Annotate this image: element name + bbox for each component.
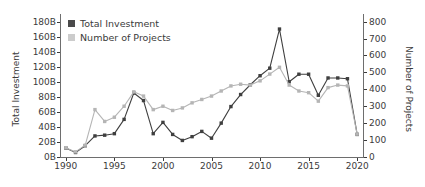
series-marker [258, 79, 261, 82]
series-marker [297, 73, 300, 76]
series-marker [317, 94, 320, 97]
series-marker [200, 98, 203, 101]
series-marker [346, 84, 349, 87]
series-marker [161, 105, 164, 108]
series-marker [113, 116, 116, 119]
legend-item[interactable]: Number of Projects [68, 31, 171, 44]
series-marker [181, 106, 184, 109]
series-marker [161, 121, 164, 124]
series-marker [317, 99, 320, 102]
series-marker [336, 83, 339, 86]
series-marker [171, 133, 174, 136]
series-marker [132, 90, 135, 93]
legend-label: Number of Projects [80, 32, 171, 43]
series-marker [122, 105, 125, 108]
series-1 [64, 27, 359, 154]
series-marker [268, 66, 271, 69]
series-marker [152, 132, 155, 135]
series-marker [142, 94, 145, 97]
series-marker [190, 135, 193, 138]
series-marker [229, 84, 232, 87]
series-marker [278, 27, 281, 30]
series-marker [268, 72, 271, 75]
series-marker [190, 101, 193, 104]
series-marker [74, 150, 77, 153]
series-marker [103, 120, 106, 123]
series-marker [287, 83, 290, 86]
series-marker [239, 83, 242, 86]
series-marker [239, 93, 242, 96]
series-marker [142, 99, 145, 102]
legend-swatch-icon [68, 20, 75, 27]
chart-series-layer [0, 0, 425, 187]
series-marker [249, 83, 252, 86]
series-marker [326, 86, 329, 89]
chart-figure: Total Investment Number of Projects 0B20… [0, 0, 425, 187]
series-marker [346, 77, 349, 80]
series-marker [200, 130, 203, 133]
series-marker [229, 105, 232, 108]
series-marker [336, 76, 339, 79]
series-marker [297, 89, 300, 92]
series-2 [64, 66, 359, 154]
series-marker [93, 134, 96, 137]
series-marker [220, 89, 223, 92]
legend-item[interactable]: Total Investment [68, 17, 171, 30]
series-marker [152, 108, 155, 111]
series-marker [278, 66, 281, 69]
series-marker [326, 76, 329, 79]
chart-legend: Total InvestmentNumber of Projects [68, 17, 171, 45]
series-marker [64, 146, 67, 149]
series-marker [84, 143, 87, 146]
series-marker [113, 132, 116, 135]
legend-swatch-icon [68, 34, 75, 41]
series-marker [307, 73, 310, 76]
series-marker [181, 139, 184, 142]
series-marker [93, 108, 96, 111]
series-marker [307, 91, 310, 94]
legend-label: Total Investment [80, 18, 159, 29]
series-marker [171, 109, 174, 112]
series-marker [210, 94, 213, 97]
series-marker [103, 133, 106, 136]
series-marker [355, 132, 358, 135]
series-marker [122, 118, 125, 121]
series-marker [210, 136, 213, 139]
series-marker [220, 121, 223, 124]
series-marker [258, 74, 261, 77]
series-line [66, 29, 357, 152]
